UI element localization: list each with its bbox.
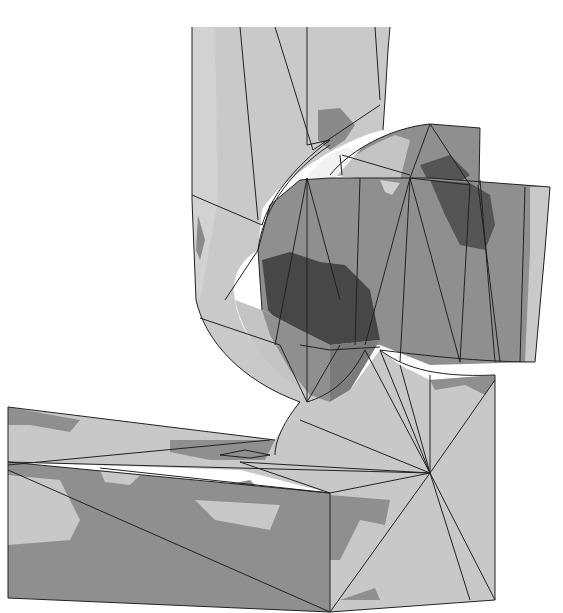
fem-mesh-figure — [0, 0, 563, 613]
box-front — [8, 462, 330, 612]
mesh-rendering — [0, 0, 563, 613]
